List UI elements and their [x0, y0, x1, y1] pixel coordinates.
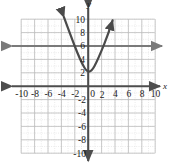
- coordinate-plane-figure: -10 -8 -6 -4 -2 0 2 4 6 8 10 10 8 6 4 2 …: [0, 0, 174, 168]
- y-tick-label: -4: [78, 108, 86, 118]
- y-tick-label: -2: [78, 95, 86, 105]
- x-axis-label: x: [162, 81, 167, 91]
- y-tick-label: 10: [76, 15, 86, 25]
- x-tick-label: 2: [100, 90, 105, 100]
- x-tick-label: 8: [140, 89, 145, 99]
- x-tick-label: -8: [31, 89, 39, 99]
- x-tick-label: -6: [44, 89, 52, 99]
- y-tick-label: -8: [78, 135, 86, 145]
- y-axis-label: y: [86, 0, 91, 9]
- x-tick-label: 4: [113, 89, 118, 99]
- graph-canvas: -10 -8 -6 -4 -2 0 2 4 6 8 10 10 8 6 4 2 …: [0, 0, 174, 168]
- y-tick-label: 6: [80, 41, 85, 51]
- y-tick-label: -10: [73, 149, 86, 159]
- x-tick-label: 10: [151, 89, 161, 99]
- y-tick-label: 2: [80, 68, 85, 78]
- x-tick-label: -4: [58, 89, 66, 99]
- y-tick-label: 8: [80, 28, 85, 38]
- x-tick-label: 6: [126, 89, 131, 99]
- y-tick-label: 4: [80, 55, 85, 65]
- x-tick-label: 0: [90, 89, 95, 99]
- y-tick-label: -6: [78, 122, 86, 132]
- x-tick-label: -10: [15, 89, 28, 99]
